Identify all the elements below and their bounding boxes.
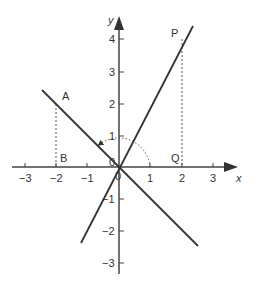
x-tick-label: 2 (179, 172, 185, 184)
y-tick-label: 1 (109, 130, 115, 142)
line-y-equals-2x (81, 26, 193, 243)
point-label-b: B (60, 152, 67, 164)
x-tick-label: 3 (210, 172, 216, 184)
x-axis-arrow-icon (224, 162, 238, 172)
y-tick-label: −3 (102, 257, 115, 269)
rotation-arc (100, 138, 150, 167)
point-label-q: Q (171, 152, 180, 164)
y-tick-label: 2 (109, 98, 115, 110)
y-axis-label: y (107, 14, 115, 26)
y-axis-arrow-icon (114, 16, 124, 30)
x-axis-label: x (235, 172, 242, 184)
point-label-a: A (62, 90, 70, 102)
x-tick-label: −1 (81, 172, 94, 184)
x-axis: x −3 −2 −1 1 2 3 (12, 162, 242, 184)
x-tick-label: −2 (50, 172, 63, 184)
coordinate-diagram: x −3 −2 −1 1 2 3 y (0, 0, 255, 284)
x-tick-label: −3 (19, 172, 32, 184)
y-axis: y 4 3 2 1 −1 −2 −3 0 0 (102, 14, 124, 274)
y-tick-label: 4 (109, 33, 115, 45)
x-tick-label: 1 (147, 172, 153, 184)
point-label-p: P (171, 27, 178, 39)
y-tick-label: −2 (102, 225, 115, 237)
y-tick-label: 3 (109, 66, 115, 78)
